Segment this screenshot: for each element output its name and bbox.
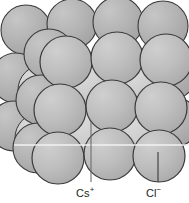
- lattice-sphere-cl: [91, 32, 143, 84]
- crystal-lattice-diagram: [0, 0, 189, 203]
- ion-label-chloride: Cl−: [146, 188, 161, 199]
- ion-label-cesium: Cs+: [76, 188, 94, 199]
- lattice-sphere-cl: [34, 84, 86, 136]
- cscl-lattice-figure: Cs+ Cl−: [0, 0, 189, 203]
- lattice-front-layer: [32, 32, 189, 184]
- lattice-sphere-cl: [40, 36, 92, 88]
- lattice-sphere-cl: [32, 132, 84, 184]
- lattice-sphere-cl: [135, 82, 187, 134]
- lattice-sphere-cl: [84, 128, 136, 180]
- ion-label-cesium-charge: +: [90, 185, 95, 194]
- lattice-sphere-cl: [140, 34, 189, 86]
- ion-label-cesium-symbol: Cs: [76, 187, 90, 199]
- lattice-sphere-cl: [133, 130, 185, 182]
- ion-label-chloride-charge: −: [157, 185, 162, 194]
- lattice-sphere-cl: [86, 80, 138, 132]
- ion-label-chloride-symbol: Cl: [146, 187, 157, 199]
